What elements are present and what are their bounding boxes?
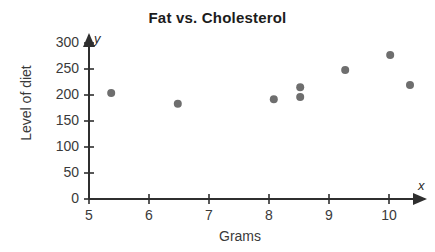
data-point xyxy=(296,83,304,91)
y-tick-label: 150 xyxy=(33,112,79,128)
data-points xyxy=(107,51,414,108)
data-point xyxy=(341,66,349,74)
data-point xyxy=(270,95,278,103)
data-point xyxy=(386,51,394,59)
y-tick-label: 300 xyxy=(33,34,79,50)
x-tick-label: 5 xyxy=(77,207,101,223)
data-point xyxy=(107,89,115,97)
data-point xyxy=(174,100,182,108)
axes xyxy=(89,35,425,199)
x-tick-label: 10 xyxy=(377,207,401,223)
y-tick-label: 200 xyxy=(33,86,79,102)
x-tick-label: 6 xyxy=(137,207,161,223)
data-point xyxy=(296,93,304,101)
x-tick-label: 7 xyxy=(197,207,221,223)
y-tick-label: 50 xyxy=(33,164,79,180)
scatter-chart: Fat vs. Cholesterol Level of diet Grams … xyxy=(0,0,435,252)
x-tick-label: 9 xyxy=(317,207,341,223)
x-tick-label: 8 xyxy=(257,207,281,223)
data-point xyxy=(406,81,414,89)
y-tick-label: 0 xyxy=(33,190,79,206)
y-tick-label: 250 xyxy=(33,60,79,76)
y-tick-label: 100 xyxy=(33,138,79,154)
